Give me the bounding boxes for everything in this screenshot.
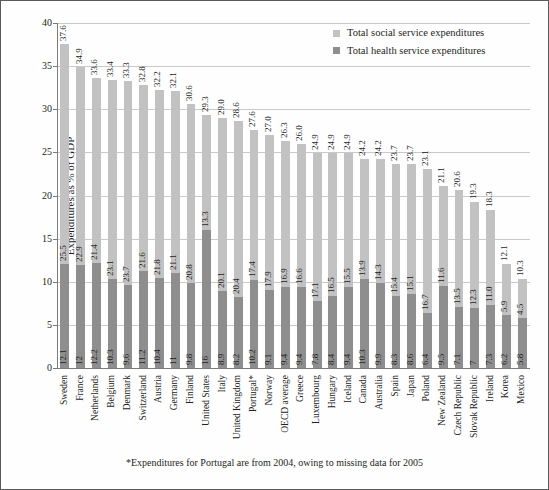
bar-column[interactable]: 24.916.58.4 (325, 23, 341, 368)
x-axis-tick-label: France (76, 375, 86, 401)
bar-column[interactable]: 18.311.07.3 (483, 23, 499, 368)
stacked-bar[interactable] (202, 115, 211, 368)
bar-column[interactable]: 24.213.910.3 (357, 23, 373, 368)
bar-segment-social[interactable] (250, 130, 259, 280)
stacked-bar[interactable] (392, 164, 401, 368)
bar-column[interactable]: 32.121.111 (167, 23, 183, 368)
stacked-bar[interactable] (139, 85, 148, 368)
x-label-column: Portugal* (246, 373, 262, 447)
bar-segment-social[interactable] (218, 118, 227, 291)
bar-health-label: 8.9 (217, 354, 226, 365)
bar-segment-health[interactable] (76, 265, 85, 369)
bar-segment-social[interactable] (155, 90, 164, 278)
stacked-bar[interactable] (502, 264, 511, 368)
stacked-bar[interactable] (470, 202, 479, 368)
stacked-bar[interactable] (328, 153, 337, 368)
stacked-bar[interactable] (108, 80, 117, 368)
bar-column[interactable]: 33.323.79.6 (120, 23, 136, 368)
bar-health-label: 9.4 (280, 354, 289, 365)
stacked-bar[interactable] (171, 91, 180, 368)
bar-column[interactable]: 12.15.96.2 (498, 23, 514, 368)
bar-segment-health[interactable] (202, 230, 211, 368)
bar-segment-social[interactable] (297, 144, 306, 287)
bar-segment-social[interactable] (60, 44, 69, 264)
stacked-bar[interactable] (407, 164, 416, 368)
stacked-bar[interactable] (250, 130, 259, 368)
stacked-bar[interactable] (455, 190, 464, 368)
stacked-bar[interactable] (60, 44, 69, 368)
bar-column[interactable]: 30.620.89.8 (183, 23, 199, 368)
stacked-bar[interactable] (423, 169, 432, 368)
bar-column[interactable]: 19.312.37 (467, 23, 483, 368)
bar-total-label: 24.2 (358, 141, 367, 157)
bar-segment-social[interactable] (171, 91, 180, 273)
x-label-column: New Zealand (435, 373, 451, 447)
chart-footnote: *Expenditures for Portugal are from 2004… (1, 457, 548, 468)
bar-column[interactable]: 28.620.48.2 (230, 23, 246, 368)
stacked-bar[interactable] (92, 78, 101, 368)
x-label-column: United States (199, 373, 215, 447)
stacked-bar[interactable] (281, 141, 290, 368)
bar-column[interactable]: 21.111.69.5 (435, 23, 451, 368)
x-axis-tick-label: Netherlands (92, 375, 102, 421)
bar-column[interactable]: 24.917.17.8 (309, 23, 325, 368)
x-axis-tick-label: Poland (423, 375, 433, 401)
stacked-bar[interactable] (124, 81, 133, 368)
bar-health-label: 12.1 (59, 349, 68, 365)
bar-social-label: 16.7 (421, 294, 430, 310)
bar-segment-social[interactable] (344, 153, 353, 287)
bar-column[interactable]: 29.313.316 (199, 23, 215, 368)
bar-total-label: 27.0 (264, 116, 273, 132)
bar-column[interactable]: 23.715.48.3 (388, 23, 404, 368)
bar-column[interactable]: 37.625.512.1 (57, 23, 73, 368)
stacked-bar[interactable] (265, 135, 274, 368)
stacked-bar[interactable] (155, 90, 164, 368)
bar-segment-social[interactable] (139, 85, 148, 271)
bar-segment-health[interactable] (171, 273, 180, 368)
bar-column[interactable]: 26.016.69.4 (293, 23, 309, 368)
bar-column[interactable]: 23.715.18.6 (404, 23, 420, 368)
bar-column[interactable]: 32.821.611.2 (136, 23, 152, 368)
x-axis-tick-label: Slovak Republic (470, 375, 480, 438)
bar-column[interactable]: 20.613.57.1 (451, 23, 467, 368)
bar-column[interactable]: 29.020.18.9 (215, 23, 231, 368)
bar-column[interactable]: 10.34.55.8 (514, 23, 530, 368)
bar-segment-social[interactable] (124, 81, 133, 285)
bar-segment-social[interactable] (265, 135, 274, 289)
bar-column[interactable]: 33.423.110.3 (104, 23, 120, 368)
bar-segment-social[interactable] (328, 153, 337, 295)
bar-column[interactable]: 32.221.810.4 (152, 23, 168, 368)
bar-column[interactable]: 27.017.99.1 (262, 23, 278, 368)
bar-segment-social[interactable] (281, 141, 290, 287)
bar-column[interactable]: 27.617.410.2 (246, 23, 262, 368)
bar-segment-social[interactable] (108, 80, 117, 279)
bar-segment-social[interactable] (187, 104, 196, 283)
bar-social-label: 20.8 (185, 265, 194, 281)
stacked-bar[interactable] (297, 144, 306, 368)
bar-health-label: 9.6 (122, 354, 131, 365)
bar-column[interactable]: 24.214.39.9 (372, 23, 388, 368)
bar-column[interactable]: 24.915.59.4 (341, 23, 357, 368)
stacked-bar[interactable] (187, 104, 196, 368)
bar-column[interactable]: 26.316.99.4 (278, 23, 294, 368)
stacked-bar[interactable] (313, 153, 322, 368)
bar-health-label: 9.8 (185, 354, 194, 365)
bar-segment-social[interactable] (76, 67, 85, 265)
bar-column[interactable]: 23.116.76.4 (420, 23, 436, 368)
bar-total-label: 26.3 (280, 122, 289, 138)
bar-column[interactable]: 33.621.412.2 (89, 23, 105, 368)
x-axis-tick-label: Switzerland (139, 375, 149, 420)
x-label-column: Poland (420, 373, 436, 447)
bar-segment-social[interactable] (92, 78, 101, 263)
stacked-bar[interactable] (218, 118, 227, 368)
stacked-bar[interactable] (76, 67, 85, 368)
bar-segment-health[interactable] (470, 308, 479, 368)
bar-segment-social[interactable] (234, 121, 243, 297)
bar-segment-social[interactable] (423, 169, 432, 313)
x-axis-tick-label: Luxembourg (312, 375, 322, 424)
bar-total-label: 24.9 (343, 135, 352, 151)
stacked-bar[interactable] (344, 153, 353, 368)
bar-segment-social[interactable] (313, 153, 322, 300)
stacked-bar[interactable] (234, 121, 243, 368)
bar-column[interactable]: 34.922.912 (73, 23, 89, 368)
